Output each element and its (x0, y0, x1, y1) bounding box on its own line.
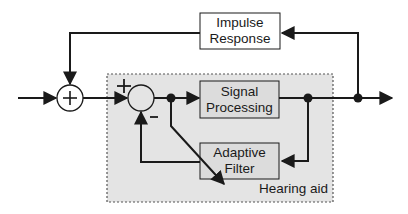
hearing-aid-label: Hearing aid (246, 181, 328, 197)
canceller-sum-node (128, 85, 154, 111)
signal-processing-label: Signal Processing (200, 81, 279, 118)
impulse-response-label: Impulse Response (200, 13, 280, 49)
adaptive-filter-label: Adaptive Filter (200, 143, 279, 179)
diagram-canvas: Impulse Response Signal Processing Adapt… (0, 0, 408, 214)
